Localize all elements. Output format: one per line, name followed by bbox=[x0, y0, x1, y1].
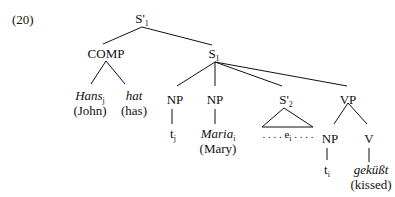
gloss-mary: (Mary) bbox=[200, 142, 237, 155]
word-hat: hat bbox=[126, 89, 143, 102]
node-np-object-trace: NP bbox=[322, 132, 339, 145]
node-root-s-bar: S'1 bbox=[135, 12, 149, 30]
node-v: V bbox=[364, 132, 373, 145]
gloss-john: (John) bbox=[73, 104, 106, 117]
tree-edges bbox=[0, 0, 395, 197]
node-np-maria: NP bbox=[207, 93, 224, 106]
trace-t-i: ti bbox=[324, 163, 330, 181]
word-gekusst: geküßt bbox=[354, 163, 389, 176]
node-s-bar-2: S'2 bbox=[279, 93, 293, 111]
node-comp: COMP bbox=[88, 47, 125, 60]
gloss-has: (has) bbox=[121, 104, 147, 117]
empty-category-e-i: . . . . ei . . . . bbox=[262, 128, 313, 145]
node-np-subject-trace: NP bbox=[167, 93, 184, 106]
node-vp: VP bbox=[340, 93, 357, 106]
trace-t-j: tj bbox=[170, 127, 176, 145]
gloss-kissed: (kissed) bbox=[350, 178, 391, 191]
node-s1: S1 bbox=[208, 47, 219, 65]
